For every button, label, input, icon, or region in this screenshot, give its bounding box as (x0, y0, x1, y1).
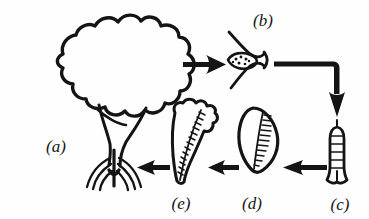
label-a: (a) (46, 137, 66, 156)
life-cycle-figure: (a) (b) (c) (d) (e) (0, 0, 369, 219)
label-c: (c) (331, 195, 350, 214)
label-e: (e) (172, 194, 191, 213)
label-d: (d) (242, 194, 262, 213)
label-b: (b) (253, 11, 273, 30)
life-cycle-diagram-canvas: (a) (b) (c) (d) (e) (0, 0, 369, 219)
figure-background (0, 0, 369, 219)
